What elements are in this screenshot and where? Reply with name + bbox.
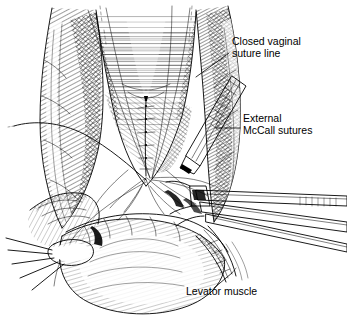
label-line-1: Levator muscle <box>186 285 257 297</box>
illustration-canvas: Closed vaginal suture line External McCa… <box>0 0 347 336</box>
label-line-2: suture line <box>232 47 281 59</box>
label-line-2: McCall sutures <box>243 124 312 136</box>
label-external-mccall-sutures: External McCall sutures <box>243 112 312 136</box>
surgical-illustration-figure: Closed vaginal suture line External McCa… <box>0 0 347 336</box>
label-line-1: Closed vaginal <box>232 35 301 47</box>
label-line-1: External <box>243 112 282 124</box>
label-closed-vaginal-suture-line: Closed vaginal suture line <box>232 35 301 59</box>
label-levator-muscle: Levator muscle <box>186 285 257 297</box>
